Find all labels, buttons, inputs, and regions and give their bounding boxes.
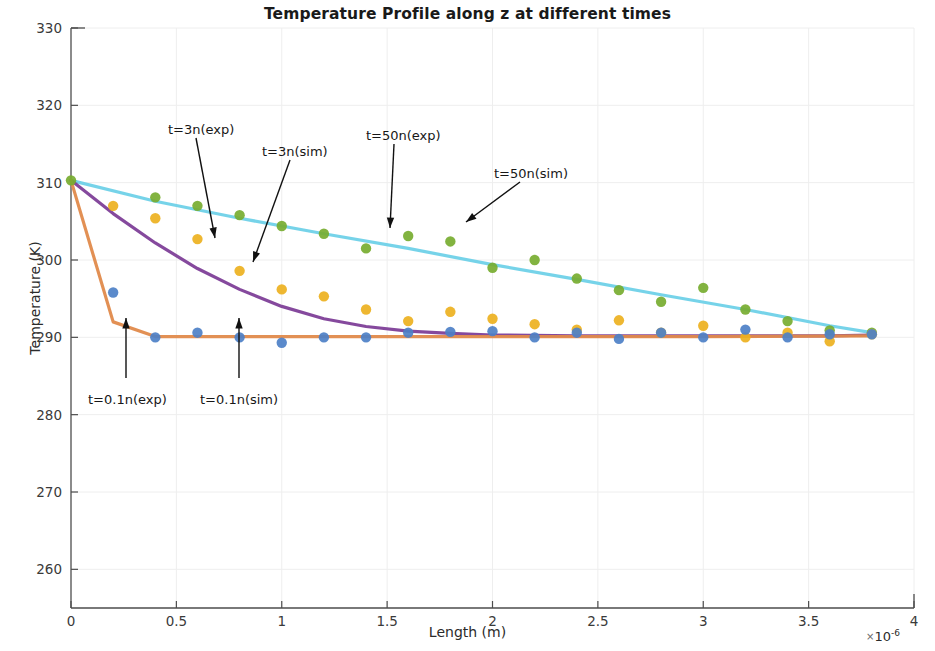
x-tick-label: 3.5 [798,613,819,629]
series-line-t-3n-sim- [71,180,872,335]
series-point-t-0-1n-exp- [361,332,371,342]
series-point-t-0-1n-exp- [445,327,455,337]
series-point-t-50n-exp- [445,236,455,246]
x-tick-label: 1.5 [376,613,397,629]
series-point-t-50n-exp- [361,243,371,253]
series-point-t-0-1n-exp- [529,332,539,342]
series-point-t-0-1n-exp- [656,327,666,337]
series-point-t-50n-exp- [277,221,287,231]
series-point-t-3n-exp- [234,266,244,276]
series-point-t-0-1n-exp- [614,334,624,344]
y-tick-label: 300 [36,252,62,268]
x-tick-label: 2.5 [587,613,608,629]
y-tick-label: 260 [36,561,62,577]
series-point-t-50n-exp- [614,285,624,295]
x-tick-label: 4 [910,613,919,629]
series-point-t-0-1n-exp- [150,332,160,342]
series-point-t-50n-exp- [782,316,792,326]
series-point-t-50n-exp- [698,283,708,293]
annot-t3n-exp: t=3n(exp) [168,122,234,137]
annot-t01n-exp: t=0.1n(exp) [88,392,167,407]
series-point-t-3n-exp- [614,315,624,325]
annotation-arrow-head-4 [122,318,129,328]
series-point-t-50n-exp- [192,201,202,211]
annotation-arrow-head-3 [466,213,477,222]
annotation-arrow-line-0 [196,138,215,238]
series-point-t-3n-exp- [361,304,371,314]
series-point-t-50n-exp- [529,255,539,265]
y-tick-label: 330 [36,20,62,36]
annotation-arrow-head-2 [387,218,394,229]
series-point-t-50n-exp- [403,231,413,241]
figure-container: Temperature Profile along z at different… [0,0,935,651]
series-point-t-3n-exp- [150,213,160,223]
series-point-t-3n-exp- [698,321,708,331]
series-point-t-3n-exp- [445,307,455,317]
series-point-t-3n-exp- [529,319,539,329]
series-point-t-0-1n-exp- [403,327,413,337]
x-tick-label: 1 [277,613,286,629]
series-point-t-50n-exp- [656,297,666,307]
series-point-t-0-1n-exp- [319,332,329,342]
series-point-t-0-1n-exp- [825,329,835,339]
annot-t50n-exp: t=50n(exp) [366,128,441,143]
x-tick-label: 0.5 [166,613,187,629]
plot-area [0,0,935,651]
series-point-t-0-1n-exp- [867,329,877,339]
series-point-t-0-1n-exp- [277,338,287,348]
series-point-t-3n-exp- [277,284,287,294]
series-point-t-0-1n-exp- [740,324,750,334]
y-tick-label: 280 [36,407,62,423]
annot-t01n-sim: t=0.1n(sim) [200,392,278,407]
series-point-t-3n-exp- [192,234,202,244]
annotation-arrow-head-0 [210,227,217,238]
series-point-t-0-1n-exp- [487,326,497,336]
x-tick-label: 2 [488,613,497,629]
annotation-arrow-head-5 [235,318,242,328]
series-point-t-50n-exp- [319,229,329,239]
series-point-t-0-1n-exp- [108,287,118,297]
series-point-t-3n-exp- [487,314,497,324]
series-point-t-3n-exp- [319,291,329,301]
series-point-t-50n-exp- [487,263,497,273]
series-line-t-0-1n-sim- [71,180,872,336]
series-point-t-0-1n-exp- [782,332,792,342]
series-point-t-50n-exp- [150,192,160,202]
series-point-t-3n-exp- [403,316,413,326]
x-tick-label: 0 [67,613,76,629]
series-line-t-50n-sim- [71,180,872,332]
series-point-t-0-1n-exp- [572,327,582,337]
series-point-t-0-1n-exp- [698,332,708,342]
y-tick-label: 310 [36,175,62,191]
annot-t50n-sim: t=50n(sim) [494,166,568,181]
annotation-arrow-line-1 [253,160,290,262]
x-tick-label: 3 [699,613,708,629]
y-tick-label: 290 [36,329,62,345]
series-point-t-50n-exp- [740,304,750,314]
annotation-arrow-line-2 [390,144,394,228]
series-point-t-3n-exp- [108,201,118,211]
annot-t3n-sim: t=3n(sim) [262,144,328,159]
series-point-t-50n-exp- [572,273,582,283]
series-point-t-0-1n-exp- [192,327,202,337]
series-point-t-50n-exp- [66,175,76,185]
series-point-t-50n-exp- [234,210,244,220]
y-tick-label: 320 [36,97,62,113]
y-tick-label: 270 [36,484,62,500]
